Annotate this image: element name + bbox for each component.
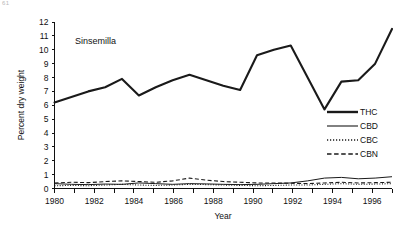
- x-axis-tick-labels: 198019821984198619881990199219941996: [45, 196, 382, 206]
- legend-label-cbn: CBN: [360, 149, 378, 159]
- figure-container: 61 0123456789101112 Percent dry weight 1…: [0, 0, 417, 232]
- y-tick-label: 2: [44, 156, 49, 166]
- y-tick-label: 5: [44, 114, 49, 124]
- x-tick-label: 1986: [164, 196, 183, 206]
- x-axis-ticks: [55, 189, 393, 193]
- y-tick-label: 8: [44, 73, 49, 83]
- legend-item-cbn: CBN: [327, 149, 378, 159]
- y-tick-label: 6: [44, 100, 49, 110]
- x-axis-title: Year: [214, 211, 231, 221]
- legend-label-cbd: CBD: [360, 121, 378, 131]
- y-axis-tick-labels: 0123456789101112: [39, 17, 49, 194]
- panel-label: Sinsemilla: [75, 36, 116, 46]
- series-line-cbd: [55, 177, 393, 185]
- y-tick-label: 9: [44, 59, 49, 69]
- x-tick-label: 1980: [45, 196, 64, 206]
- x-tick-label: 1990: [244, 196, 263, 206]
- line-chart: 0123456789101112 Percent dry weight 1980…: [0, 0, 417, 232]
- legend-label-thc: THC: [360, 107, 377, 117]
- x-tick-label: 1984: [124, 196, 143, 206]
- x-tick-label: 1992: [283, 196, 302, 206]
- x-axis: 198019821984198619881990199219941996 Yea…: [45, 189, 392, 222]
- y-tick-label: 10: [39, 45, 49, 55]
- y-axis-title: Percent dry weight: [16, 69, 26, 140]
- x-tick-label: 1996: [363, 196, 382, 206]
- legend-label-cbc: CBC: [360, 135, 378, 145]
- series-line-cbn: [55, 178, 393, 184]
- legend-item-cbc: CBC: [327, 135, 378, 145]
- legend-item-cbd: CBD: [327, 121, 378, 131]
- x-tick-label: 1994: [323, 196, 342, 206]
- data-series-group: [55, 29, 393, 186]
- corner-page-mark: 61: [2, 0, 9, 7]
- y-tick-label: 11: [40, 31, 49, 41]
- y-tick-label: 0: [44, 184, 49, 194]
- y-tick-label: 1: [44, 170, 49, 180]
- x-tick-label: 1982: [85, 196, 104, 206]
- legend-item-thc: THC: [327, 107, 377, 117]
- x-tick-label: 1988: [204, 196, 223, 206]
- y-tick-label: 3: [44, 142, 49, 152]
- y-axis: 0123456789101112 Percent dry weight: [16, 17, 55, 194]
- y-tick-label: 7: [44, 86, 49, 96]
- chart-legend: THC CBD CBC CBN: [327, 107, 378, 159]
- y-tick-label: 12: [39, 17, 49, 27]
- y-tick-label: 4: [44, 128, 49, 138]
